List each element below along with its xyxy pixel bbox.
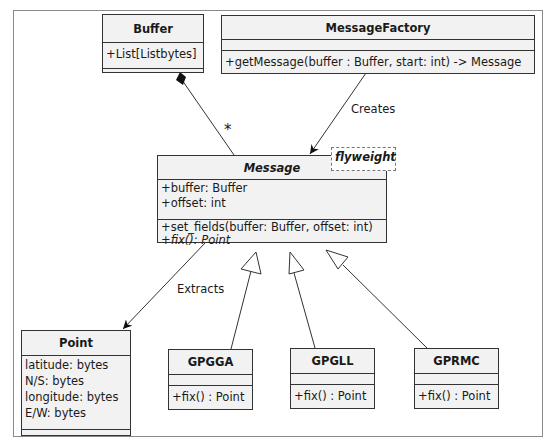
methods-section: +fix() : Point	[291, 385, 374, 411]
class-buffer[interactable]: Buffer +List[Listbytes]	[102, 14, 204, 73]
attribute: latitude: bytes	[25, 357, 127, 373]
attributes-section	[291, 374, 374, 385]
class-name: GPGGA	[169, 350, 252, 375]
attribute: E/W: bytes	[25, 405, 127, 421]
abstract-method: +fix(): Point	[161, 234, 383, 247]
class-name: GPRMC	[415, 349, 498, 374]
class-gprmc[interactable]: GPRMC +fix() : Point	[414, 348, 499, 409]
attributes-section: latitude: bytes N/S: bytes longitude: by…	[22, 356, 130, 430]
method: +fix() : Point	[294, 386, 371, 407]
class-message-factory[interactable]: MessageFactory +getMessage(buffer : Buff…	[221, 15, 535, 74]
flyweight-note: flyweight	[331, 147, 396, 171]
generalization-gprmc	[326, 250, 427, 348]
extracts-label: Extracts	[177, 282, 224, 296]
class-gpgll[interactable]: GPGLL +fix() : Point	[290, 348, 375, 409]
method: +fix() : Point	[418, 386, 495, 407]
composition-line	[176, 72, 234, 155]
methods-section	[103, 69, 203, 75]
attributes-section: +buffer: Buffer +offset: int	[158, 180, 386, 220]
methods-section: +fix() : Point	[415, 385, 498, 411]
class-name: Buffer	[103, 15, 203, 43]
methods-section	[22, 430, 130, 438]
attribute: +buffer: Buffer	[161, 181, 383, 196]
method: +fix() : Point	[172, 387, 249, 408]
attribute: +List[Listbytes]	[106, 44, 200, 64]
class-gpgga[interactable]: GPGGA +fix() : Point	[168, 349, 253, 410]
methods-section: +set_fields(buffer: Buffer, offset: int)…	[158, 220, 386, 249]
methods-section: +fix() : Point	[169, 386, 252, 412]
class-point[interactable]: Point latitude: bytes N/S: bytes longitu…	[21, 330, 131, 436]
creates-label: Creates	[351, 102, 395, 116]
attribute: N/S: bytes	[25, 373, 127, 389]
methods-section: +getMessage(buffer : Buffer, start: int)…	[222, 51, 534, 77]
attributes-section	[415, 374, 498, 385]
attributes-section	[169, 375, 252, 386]
generalization-gpgga	[231, 252, 261, 349]
attribute: +offset: int	[161, 196, 383, 211]
class-name: MessageFactory	[222, 16, 534, 40]
hollow-triangle-icon	[289, 252, 304, 274]
class-name: Point	[22, 331, 130, 356]
attributes-section	[222, 40, 534, 51]
generalization-gpgll	[289, 252, 315, 348]
method: +getMessage(buffer : Buffer, start: int)…	[225, 52, 531, 73]
hollow-triangle-icon	[241, 252, 261, 274]
multiplicity-label: *	[224, 121, 232, 139]
class-name: GPGLL	[291, 349, 374, 374]
attributes-section: +List[Listbytes]	[103, 43, 203, 69]
attribute: longitude: bytes	[25, 389, 127, 405]
